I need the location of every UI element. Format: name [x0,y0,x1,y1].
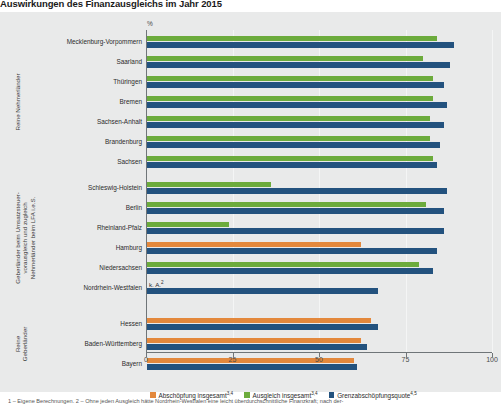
bar-grenzquote-bayern [147,364,357,369]
bar-grenzquote-brandenburg [147,142,440,147]
bar-grenzquote-bremen [147,102,447,107]
category-label-schleswig-holstein: Schleswig-Holstein [10,184,142,191]
bar-grenzquote-mecklenburg-vorpommern [147,42,454,47]
bar-ausgleich-berlin [147,202,426,207]
bar-grenzquote-hamburg [147,248,437,253]
plot-area: k. A.2 0255075100 [146,30,492,353]
annotation-keine-angabe: k. A.2 [149,280,164,288]
bar-grenzquote-rheinland-pfalz [147,228,444,233]
legend-swatch-grenzquote [329,392,335,398]
bar-ausgleich-mecklenburg-vorpommern [147,36,437,41]
bar-grenzquote-sachsen [147,162,437,167]
footnote: 1 – Eigene Berechnungen. 2 – Ohne jeden … [8,398,496,405]
category-label-niedersachsen: Niedersachsen [10,264,142,271]
category-label-sachsen: Sachsen [10,158,142,165]
category-label-column: Mecklenburg-VorpommernSaarlandThüringenB… [10,12,142,352]
chart-panel: Reine NehmerländerGeberländer beim Umsat… [0,12,501,392]
category-label-bremen: Bremen [10,98,142,105]
category-label-saarland: Saarland [10,58,142,65]
category-label-bayern: Bayern [10,360,142,367]
category-label-hessen: Hessen [10,320,142,327]
tick-label-100: 100 [486,356,498,363]
category-label-brandenburg: Brandenburg [10,138,142,145]
tick-label-50: 50 [315,356,323,363]
bar-ausgleich-rheinland-pfalz [147,222,229,227]
bar-ausgleich-schleswig-holstein [147,182,271,187]
bar-grenzquote-berlin [147,208,444,213]
tick-label-0: 0 [144,356,148,363]
bar-ausgleich-saarland [147,56,423,61]
page-title: Auswirkungen des Finanzausgleichs im Jah… [0,0,501,10]
category-label-mecklenburg-vorpommern: Mecklenburg-Vorpommern [10,38,142,45]
gridline-100 [492,30,493,353]
category-label-baden-w-rttemberg: Baden-Württemberg [10,340,142,347]
bar-abschoepfung-hessen [147,318,371,323]
bar-grenzquote-baden-w-rttemberg [147,344,367,349]
bar-ausgleich-bremen [147,96,433,101]
legend-swatch-abschoepfung [150,392,156,398]
category-label-th-ringen: Thüringen [10,78,142,85]
bar-grenzquote-nordrhein-westfalen [147,288,378,293]
tick-label-75: 75 [402,356,410,363]
axis-unit-label: % [147,20,153,27]
category-label-rheinland-pfalz: Rheinland-Pfalz [10,224,142,231]
category-label-berlin: Berlin [10,204,142,211]
bar-grenzquote-hessen [147,324,378,329]
bar-abschoepfung-hamburg [147,242,361,247]
bar-grenzquote-niedersachsen [147,268,433,273]
bar-ausgleich-brandenburg [147,136,430,141]
bar-grenzquote-saarland [147,62,450,67]
bar-ausgleich-niedersachsen [147,262,419,267]
bar-ausgleich-th-ringen [147,76,433,81]
tick-label-25: 25 [229,356,237,363]
bar-ausgleich-sachsen [147,156,433,161]
bar-abschoepfung-baden-w-rttemberg [147,338,361,343]
category-label-sachsen-anhalt: Sachsen-Anhalt [10,118,142,125]
legend-swatch-ausgleich [244,392,250,398]
bar-grenzquote-th-ringen [147,82,444,87]
category-label-nordrhein-westfalen: Nordrhein-Westfalen [10,284,142,291]
y-axis-line [146,30,147,353]
category-label-hamburg: Hamburg [10,244,142,251]
bar-grenzquote-schleswig-holstein [147,188,447,193]
bar-grenzquote-sachsen-anhalt [147,122,444,127]
bar-ausgleich-sachsen-anhalt [147,116,430,121]
